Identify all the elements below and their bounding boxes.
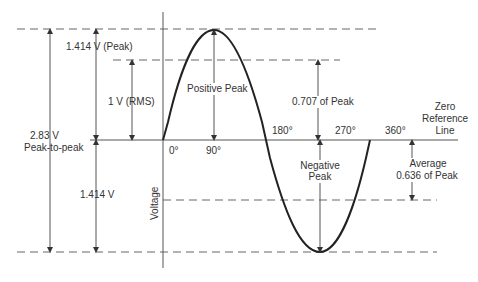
sine-wave xyxy=(163,30,370,252)
zero-ref-label-2: Reference xyxy=(418,113,472,125)
negative-peak-label-2: Peak xyxy=(305,171,335,183)
neg-peak-value-label: 1.414 V xyxy=(80,189,114,201)
peak-label: 1.414 V (Peak) xyxy=(66,41,133,53)
p2p-text-label: Peak-to-peak xyxy=(24,142,83,154)
zero-ref-label-3: Line xyxy=(425,125,465,137)
rms-label: 1 V (RMS) xyxy=(108,96,155,108)
angle-180: 180° xyxy=(272,125,293,137)
p2p-value-label: 2.83 V xyxy=(30,130,59,142)
angle-90: 90° xyxy=(206,145,221,157)
average-label-1: Average xyxy=(398,158,458,170)
angle-0: 0° xyxy=(169,145,179,157)
rms-fraction-label: 0.707 of Peak xyxy=(292,96,354,108)
voltage-axis-label: Voltage xyxy=(149,187,160,220)
angle-360: 360° xyxy=(385,125,406,137)
positive-peak-label: Positive Peak xyxy=(187,83,248,95)
zero-ref-label-1: Zero xyxy=(425,101,465,113)
sine-wave-diagram: 1.414 V (Peak) 1 V (RMS) 2.83 V Peak-to-… xyxy=(0,0,478,282)
angle-270: 270° xyxy=(335,125,356,137)
average-label-2: 0.636 of Peak xyxy=(386,170,468,182)
